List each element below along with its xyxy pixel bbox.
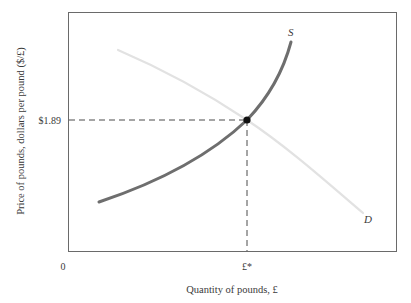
- price-tick-label: $1.89: [39, 115, 62, 126]
- equilibrium-point: [243, 116, 250, 123]
- y-axis-title: Price of pounds, dollars per pound ($/£): [15, 47, 27, 215]
- supply-curve: [99, 42, 291, 202]
- supply-label: S: [288, 26, 294, 38]
- demand-curve: [118, 50, 363, 213]
- quantity-tick-label: £*: [242, 261, 252, 272]
- supply-demand-chart: S D $1.89 £* 0 Quantity of pounds, £ Pri…: [0, 0, 411, 303]
- origin-label: 0: [61, 261, 66, 272]
- x-axis-title: Quantity of pounds, £: [186, 284, 278, 295]
- demand-label: D: [363, 213, 372, 225]
